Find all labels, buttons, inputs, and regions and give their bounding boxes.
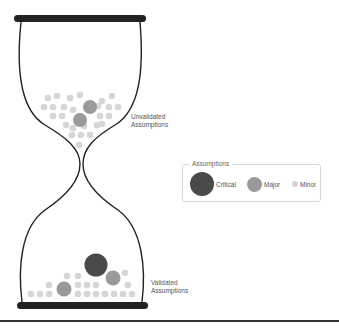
major-swatch-icon: [247, 177, 262, 192]
legend-label: Critical: [216, 181, 236, 188]
legend: Assumptions Critical Major Minor: [182, 164, 321, 202]
label-line-1: Unvalidated: [131, 113, 168, 121]
bottom-major-ball-2: [106, 271, 121, 286]
label-line-2: Assumptions: [131, 121, 168, 129]
label-line-2: Assumptions: [151, 287, 188, 295]
bottom-major-ball-1: [57, 282, 72, 297]
legend-item-major: Major: [247, 170, 280, 198]
validated-assumptions-label: Validated Assumptions: [151, 279, 188, 295]
bottom-critical-ball: [85, 254, 108, 277]
hourglass-top-bar: [14, 15, 146, 22]
bottom-divider-line: [0, 320, 339, 322]
unvalidated-assumptions-label: Unvalidated Assumptions: [131, 113, 168, 129]
critical-swatch-icon: [190, 172, 214, 196]
hourglass-bottom-bar: [17, 302, 148, 309]
legend-label: Minor: [300, 181, 316, 188]
top-major-ball-1: [83, 100, 97, 114]
legend-title: Assumptions: [189, 160, 232, 167]
legend-item-critical: Critical: [190, 170, 236, 198]
label-line-1: Validated: [151, 279, 188, 287]
legend-item-minor: Minor: [292, 170, 316, 198]
hourglass-outline-left: [19, 22, 80, 302]
legend-label: Major: [264, 181, 280, 188]
top-major-ball-2: [73, 113, 87, 127]
minor-swatch-icon: [292, 181, 298, 187]
